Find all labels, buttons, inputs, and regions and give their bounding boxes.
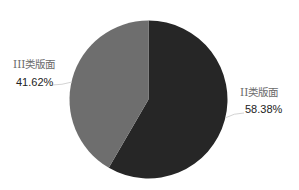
label-percent-ii: 58.38% — [245, 103, 283, 115]
leader-line-ii — [225, 113, 244, 118]
label-percent-iii: 41.62% — [16, 76, 54, 88]
label-name-iii: III类版面 — [13, 58, 55, 70]
label-name-ii: II类版面 — [240, 86, 278, 98]
pie-chart: III类版面 41.62% II类版面 58.38% — [0, 0, 299, 190]
leader-line-iii — [52, 82, 72, 85]
pie-slices — [70, 21, 228, 179]
